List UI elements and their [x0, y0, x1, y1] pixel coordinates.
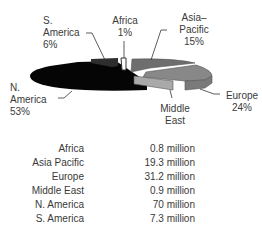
table-row: S. America 7.3 million [0, 212, 262, 226]
table-value: 7.3 million [150, 212, 195, 226]
table-row: Middle East 0.9 million [0, 184, 262, 198]
slice-n-america [30, 61, 147, 91]
table-value: 19.3 million [144, 156, 195, 170]
label-s-america: S. America 6% [43, 15, 80, 51]
table-value: 0.8 million [150, 142, 195, 156]
label-middle-east: Middle East [155, 103, 195, 127]
table-region: Middle East [32, 184, 84, 198]
table-region: Asia Pacific [32, 156, 84, 170]
label-asia-pacific: Asia– Pacific 15% [176, 12, 212, 48]
label-n-america: N. America 53% [10, 82, 47, 118]
table-region: Europe [52, 170, 84, 184]
table-region: N. America [35, 198, 84, 212]
table-row: Asia Pacific 19.3 million [0, 156, 262, 170]
table-region: S. America [36, 212, 84, 226]
table-value: 31.2 million [144, 170, 195, 184]
table-row: Europe 31.2 million [0, 170, 262, 184]
table-row: Africa 0.8 million [0, 142, 262, 156]
table-value: 70 million [153, 198, 195, 212]
table-value: 0.9 million [150, 184, 195, 198]
table-row: N. America 70 million [0, 198, 262, 212]
table-region: Africa [58, 142, 84, 156]
label-europe: Europe 24% [222, 90, 262, 114]
label-africa: Africa 1% [110, 15, 140, 39]
slice-africa [121, 58, 126, 70]
